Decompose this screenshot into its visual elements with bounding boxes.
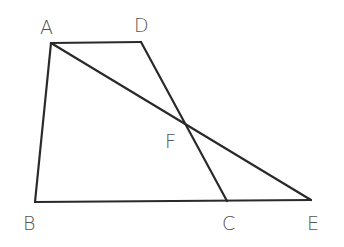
segment-AB xyxy=(35,43,51,202)
segment-DC xyxy=(141,42,227,201)
label-A: A xyxy=(40,16,53,38)
segment-AD xyxy=(51,42,141,43)
label-D: D xyxy=(134,14,149,36)
segment-AE xyxy=(51,43,311,200)
label-B: B xyxy=(23,212,35,234)
label-E: E xyxy=(307,212,319,234)
geometry-diagram: A D F B C E xyxy=(0,0,344,247)
label-C: C xyxy=(222,212,235,234)
segment-BE xyxy=(35,200,311,202)
label-F: F xyxy=(165,130,176,152)
